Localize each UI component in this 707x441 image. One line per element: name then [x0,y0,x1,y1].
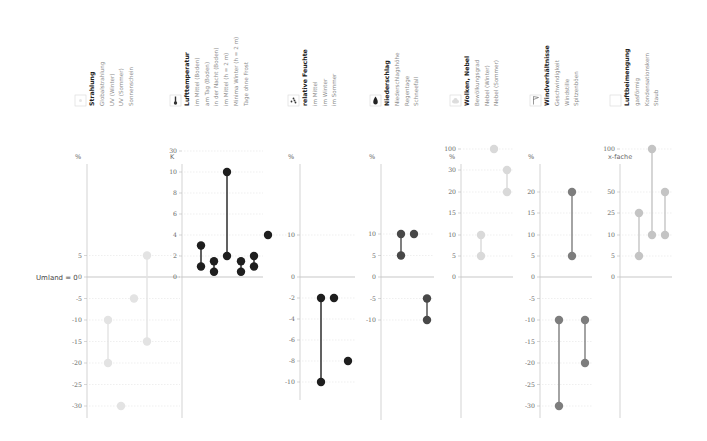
data-point-max [104,316,112,324]
tick-label: -15 [525,338,535,345]
data-point-min [477,252,485,260]
panel-header: WindverhältnisseGeschwindigkeitWindstill… [530,45,580,106]
legend-item: am Tag (Boden) [204,62,211,106]
panel-windverhaeltnisse: WindverhältnisseGeschwindigkeitWindstill… [525,45,592,418]
data-point-max [330,294,338,302]
data-point-min [143,337,151,345]
data-point-min [423,316,431,324]
droplet [293,98,295,100]
data-point-max [648,145,656,153]
tick-label: -30 [72,402,82,409]
tick-label: -5 [529,295,535,302]
data-point-min [555,402,563,410]
legend-item: Regentage [404,75,411,106]
panel-niederschlag: NiederschlagNiederschlagshöheRegentageSc… [366,52,434,420]
tick-label: 100 [444,145,456,152]
tick-label: -10 [72,316,82,323]
droplet [291,101,293,103]
data-point-min [581,359,589,367]
tick-label: 10 [169,168,177,175]
legend-item: UV (Sommer) [118,68,124,106]
tick-label: 10 [607,231,615,238]
series-0 [555,316,563,410]
series-1 [210,257,218,276]
legend-item: Minima Winter (h = 2 m) [233,37,239,106]
data-point-min [661,231,669,239]
data-point-max [197,241,205,249]
cloud-puff [454,98,458,102]
tick-label: -25 [72,381,82,388]
axis-unit: % [449,153,455,161]
data-point-max [635,209,643,217]
series-1 [117,402,125,410]
tick-label: 10 [448,231,456,238]
tick-label: 10 [527,231,535,238]
data-point-max [490,145,498,153]
panel-header: LuftbeimengunggasförmigKondensationskern… [610,49,659,106]
data-point-max [130,294,138,302]
panel-title: Windverhältnisse [543,45,550,106]
tick-label: 15 [448,209,456,216]
series-1 [490,145,498,153]
data-point-max [344,357,352,365]
data-point-max [143,251,151,259]
data-point-min [250,262,258,270]
panel-title: Lufttemperatur [183,51,191,106]
tick-label: 0 [372,273,376,280]
tick-label: 5 [372,252,376,259]
series-0 [477,231,485,260]
data-point-max [223,168,231,176]
legend-item: Sonnenschein [128,66,134,106]
tick-label: 2 [173,252,177,259]
tick-label: 5 [452,252,456,259]
tick-label: 10 [368,230,376,237]
series-2 [130,294,138,302]
tick-label: -20 [72,359,82,366]
panel-header: Wolken, NebelBewölkungsgradNebel (Winter… [450,56,499,106]
series-0 [635,209,643,260]
tick-label: -10 [285,378,295,385]
tick-label: 0 [452,273,456,280]
panel-relative-feuchte: relative Feuchteim Mittelim Winterim Som… [285,49,355,400]
panel-strahlung: StrahlungGlobalstrahlungUV (Winter)UV (S… [72,61,180,418]
panel-luftbeimengung: LuftbeimengunggasförmigKondensationskern… [603,49,672,418]
tick-label: -20 [525,359,535,366]
legend-item: im Mittel (Boden) [194,58,200,106]
baseline-label: Umland = 0 [36,274,78,282]
series-1 [330,294,338,302]
tick-label: 15 [527,209,535,216]
data-point-min [635,252,643,260]
tick-label: 5 [78,252,82,259]
panel-header: StrahlungGlobalstrahlungUV (Winter)UV (S… [75,61,134,106]
data-point-max [397,230,405,238]
data-point-min [210,268,218,276]
thermometer-bulb [174,101,177,104]
data-point-min [104,359,112,367]
axis-unit: % [369,153,375,161]
data-point-min [503,188,511,196]
panel-lufttemperatur: Lufttemperaturim Mittel (Boden)am Tag (B… [169,37,300,418]
legend-item: im Winter [322,78,328,106]
legend-item: Geschwindigkeit [554,59,561,106]
panel-title: Luftbeimengung [623,49,631,106]
data-point-max [264,231,272,239]
tick-label: 50 [607,188,615,195]
tick-label: 30 [169,147,177,154]
data-point-max [210,257,218,265]
axis-unit: % [75,153,81,161]
tick-label: -15 [72,338,82,345]
tick-label: -6 [289,336,295,343]
stadtklima-chart: StrahlungGlobalstrahlungUV (Winter)UV (S… [0,0,707,441]
series-0 [397,230,405,260]
data-point-max [117,402,125,410]
panel-title: relative Feuchte [301,49,308,106]
panel-wolken-nebel: Wolken, NebelBewölkungsgradNebel (Winter… [444,56,513,418]
tick-label: 0 [173,273,177,280]
data-point-min [397,251,405,259]
data-point-max [581,316,589,324]
legend-item: in der Nacht (Boden) [213,48,219,106]
data-point-max [555,316,563,324]
series-2 [661,188,669,239]
tick-label: 10 [287,231,295,238]
data-point-max [423,294,431,302]
